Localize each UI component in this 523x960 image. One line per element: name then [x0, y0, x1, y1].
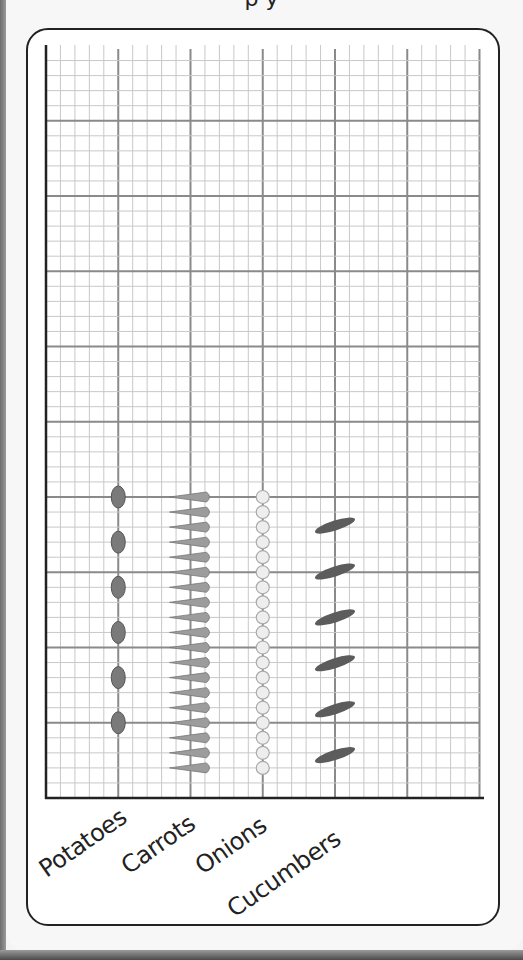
onion-icon: [256, 626, 269, 639]
onion-icon: [256, 551, 269, 564]
onion-icon: [256, 686, 269, 699]
potato-icon: [111, 486, 125, 508]
onion-icon: [256, 656, 269, 669]
pictograph-chart: [0, 0, 523, 960]
onion-icon: [256, 716, 269, 729]
onion-icon: [256, 536, 269, 549]
onion-icon: [256, 731, 269, 744]
onion-icon: [256, 761, 269, 774]
onion-icon: [256, 611, 269, 624]
potato-icon: [111, 712, 125, 734]
potato-icon: [111, 667, 125, 689]
onion-icon: [256, 491, 269, 504]
potato-icon: [111, 621, 125, 643]
onion-icon: [256, 506, 269, 519]
onion-icon: [256, 746, 269, 759]
onion-icon: [256, 596, 269, 609]
onion-icon: [256, 671, 269, 684]
potato-icon: [111, 576, 125, 598]
onion-icon: [256, 701, 269, 714]
onion-icon: [256, 521, 269, 534]
onion-icon: [256, 581, 269, 594]
potato-icon: [111, 531, 125, 553]
onion-icon: [256, 566, 269, 579]
onion-icon: [256, 641, 269, 654]
